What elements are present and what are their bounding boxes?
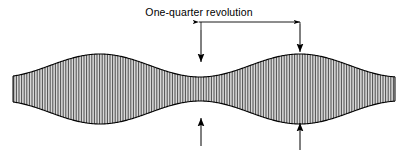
figure-canvas xyxy=(0,0,407,151)
twisted-band-figure: One-quarter revolution xyxy=(0,0,407,151)
